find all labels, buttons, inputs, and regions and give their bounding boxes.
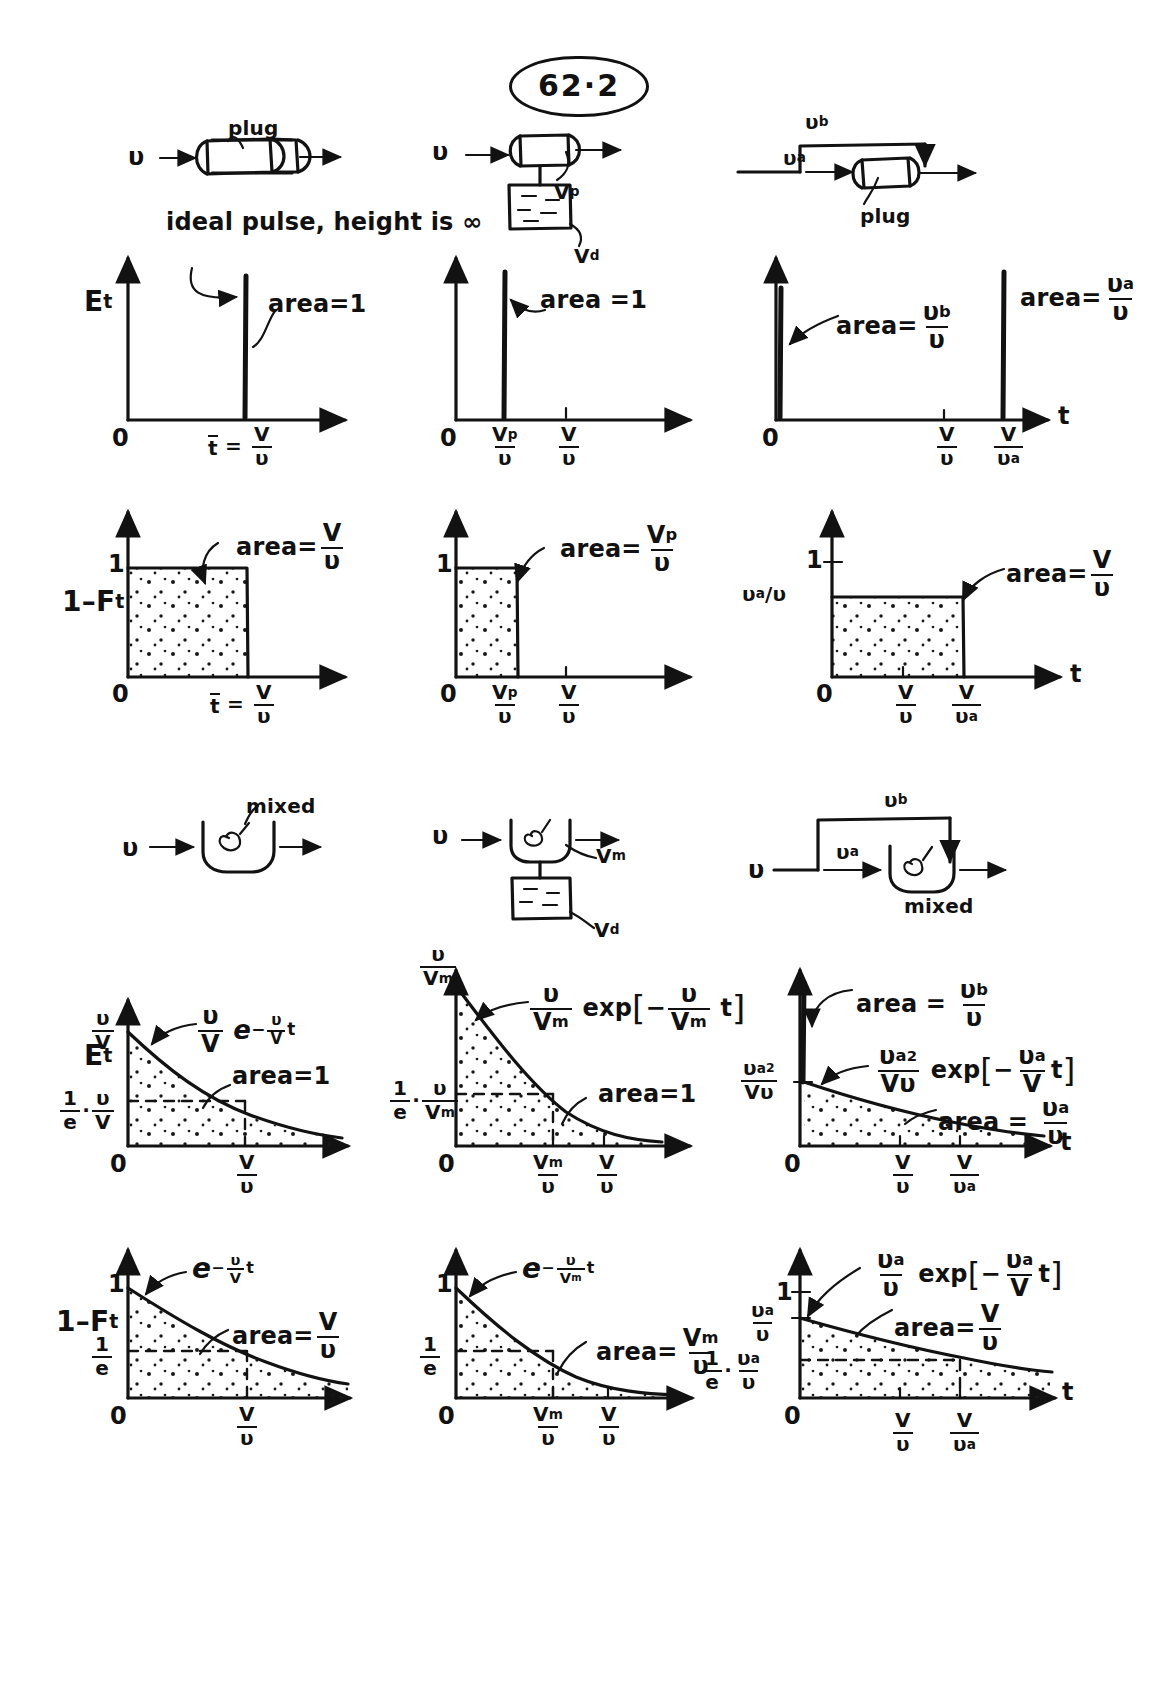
chart1-origin-label: 0 bbox=[112, 426, 129, 450]
chart-1-axes bbox=[128, 258, 345, 420]
chart8-equation: υVm exp [ −υVm t ] bbox=[528, 982, 746, 1035]
chart-2-axes bbox=[456, 258, 690, 420]
chart11-y-tick-e: 1e bbox=[418, 1334, 442, 1379]
chart6-x-tick-0: Vυ bbox=[893, 682, 919, 727]
sketch5-inlet-label: υ bbox=[432, 824, 448, 848]
chart9-y-tick-top: υa2Vυ bbox=[738, 1058, 780, 1103]
sketch4-inlet-label: υ bbox=[122, 836, 138, 860]
chart10-x-tick-0: Vυ bbox=[234, 1404, 260, 1449]
sketch-plug-flow bbox=[160, 137, 340, 174]
chart5-origin-label: 0 bbox=[440, 682, 457, 706]
sketch4-mixed-callout: mixed bbox=[246, 796, 315, 816]
chart8-area-label: area=1 bbox=[598, 1082, 697, 1106]
chart2-origin-label: 0 bbox=[440, 426, 457, 450]
chart6-x-axis-label: t bbox=[1070, 662, 1082, 686]
sketch1-plug-callout: plug bbox=[228, 118, 279, 138]
chart8-origin-label: 0 bbox=[438, 1152, 455, 1176]
area-word-6: area bbox=[856, 992, 917, 1016]
sketch1-inlet-label: υ bbox=[128, 145, 144, 169]
chart4-y-axis-label: 1–Ft bbox=[62, 588, 125, 616]
chart3-x-tick-1: Vυa bbox=[992, 424, 1025, 469]
chart9-x-axis-label: t bbox=[1060, 1130, 1072, 1154]
sketch-plug-bypass bbox=[738, 144, 975, 204]
chart11-x-tick-0: Vmυ bbox=[528, 1404, 568, 1449]
chart5-y-tick-1: 1 bbox=[436, 552, 453, 576]
sketch3-plug-callout: plug bbox=[860, 206, 911, 226]
chart12-y-tick-ratio: υaυ bbox=[746, 1300, 779, 1345]
chart10-y-axis-label: 1–Ft bbox=[56, 1308, 119, 1336]
sketch-mixed-dead-volume bbox=[462, 820, 618, 928]
chart8-x-tick-1: Vυ bbox=[594, 1152, 620, 1197]
chart3-area-b-label: area=υbυ bbox=[836, 300, 956, 353]
chart4-origin-label: 0 bbox=[112, 682, 129, 706]
chart12-x-tick-0: Vυ bbox=[890, 1410, 916, 1455]
sketch6-bypass-label: υb bbox=[884, 790, 908, 810]
chart9-area-a-label: area = υaυ bbox=[938, 1096, 1074, 1149]
chart11-equation: e−υVmt bbox=[522, 1252, 594, 1285]
chart7-area-label: area=1 bbox=[232, 1064, 331, 1088]
chart4-area-label: area=Vυ bbox=[236, 521, 346, 574]
chart6-origin-label: 0 bbox=[816, 682, 833, 706]
chart9-x-tick-0: Vυ bbox=[890, 1152, 916, 1197]
area-word-7: area bbox=[938, 1110, 999, 1134]
sketch5-vd-callout: Vd bbox=[594, 920, 620, 940]
chart10-y-tick-e: 1e bbox=[90, 1334, 114, 1379]
area-word-1: area bbox=[836, 314, 897, 338]
chart11-x-tick-1: Vυ bbox=[596, 1404, 622, 1449]
area-word-4: area bbox=[560, 537, 621, 561]
chart3-origin-label: 0 bbox=[762, 426, 779, 450]
sketch6-through-label: υa bbox=[836, 842, 859, 862]
chart9-x-tick-1: Vυa bbox=[948, 1152, 981, 1197]
chart2-x-tick-1: Vυ bbox=[556, 424, 582, 469]
chart10-origin-label: 0 bbox=[110, 1404, 127, 1428]
area-word-8: area bbox=[232, 1324, 293, 1348]
chart7-y-tick-e: 1e·υV bbox=[58, 1088, 116, 1133]
chart9-equation: υa2Vυ exp [ −υaVt ] bbox=[874, 1044, 1075, 1097]
area-word-10: area bbox=[894, 1316, 955, 1340]
chart8-y-tick-e: 1e·υVm bbox=[388, 1078, 460, 1123]
chart7-origin-label: 0 bbox=[110, 1152, 127, 1176]
chart12-x-tick-1: Vυa bbox=[948, 1410, 981, 1455]
chart7-x-tick-0: Vυ bbox=[234, 1152, 260, 1197]
chart8-y-tick-top: υVm bbox=[418, 944, 458, 989]
chart12-equation: υaυ exp [ −υaVt ] bbox=[872, 1248, 1063, 1301]
sketch5-vm-callout: Vm bbox=[596, 846, 626, 866]
chart10-equation: e−υVt bbox=[192, 1252, 254, 1285]
chart6-y-tick-ratio: υa/υ bbox=[742, 584, 786, 604]
chart4-x-tick-0: t = Vυ bbox=[210, 682, 277, 727]
chart5-area-label: area=Vpυ bbox=[560, 523, 682, 576]
chart4-y-tick-1: 1 bbox=[108, 552, 125, 576]
chart11-origin-label: 0 bbox=[438, 1404, 455, 1428]
chart5-x-tick-0: Vpυ bbox=[487, 682, 523, 727]
sketch2-inlet-label: υ bbox=[432, 140, 448, 164]
area-word-9: area bbox=[596, 1340, 657, 1364]
sketch3-through-label: υa bbox=[783, 148, 806, 168]
chart1-x-tick-0: t = Vυ bbox=[208, 424, 275, 469]
sketch2-vp-callout: Vp bbox=[554, 182, 580, 202]
area-word-2: area bbox=[1020, 286, 1081, 310]
chart3-x-tick-0: Vυ bbox=[934, 424, 960, 469]
chart7-equation: υV e−υVt bbox=[196, 1004, 296, 1057]
chart12-x-axis-label: t bbox=[1062, 1380, 1074, 1404]
chart10-y-tick-1: 1 bbox=[108, 1272, 125, 1296]
sketch-plug-dead-volume bbox=[466, 135, 620, 246]
chart6-y-tick-1: 1 bbox=[806, 548, 823, 572]
chart9-origin-label: 0 bbox=[784, 1152, 801, 1176]
area-word-5: area bbox=[1006, 562, 1067, 586]
chart1-area-label: area=1 bbox=[268, 292, 367, 316]
chart12-y-tick-e: 1e·υaυ bbox=[700, 1348, 765, 1393]
sketch3-bypass-label: υb bbox=[805, 112, 829, 132]
chart6-area-label: area=Vυ bbox=[1006, 548, 1116, 601]
sketch6-mixed-callout: mixed bbox=[904, 896, 973, 916]
chart2-x-tick-0: Vpυ bbox=[487, 424, 523, 469]
chart2-area-label: area =1 bbox=[540, 288, 647, 312]
chart5-x-tick-1: Vυ bbox=[556, 682, 582, 727]
chart3-area-a-label: area=υaυ bbox=[1020, 272, 1139, 325]
chart1-ideal-pulse-note: ideal pulse, height is ∞ bbox=[166, 210, 482, 234]
chart7-y-tick-top: υV bbox=[90, 1008, 116, 1053]
sketch-mixed-bypass bbox=[774, 818, 1005, 892]
chart1-y-axis-label: Et bbox=[84, 288, 113, 316]
sketch2-vd-callout: Vd bbox=[574, 246, 600, 266]
notebook-page: 62·2 bbox=[0, 0, 1158, 1696]
chart12-area-label: area=Vυ bbox=[894, 1302, 1004, 1355]
